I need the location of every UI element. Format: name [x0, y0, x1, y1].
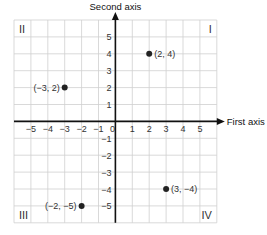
data-point [163, 186, 169, 192]
x-tick-label: −4 [43, 124, 53, 134]
x-tick-label: −2 [76, 124, 86, 134]
quadrant-label: II [19, 23, 25, 35]
y-tick-label: −4 [101, 185, 111, 195]
data-point-label: (3, −4) [171, 184, 197, 194]
data-point [62, 85, 68, 91]
data-point [146, 51, 152, 57]
y-tick-label: −1 [101, 134, 111, 144]
y-tick-label: 3 [106, 66, 111, 76]
quadrant-label: IV [201, 209, 212, 221]
y-tick-label: −5 [101, 201, 111, 211]
x-axis-label: First axis [227, 116, 265, 127]
data-point-label: (−3, 2) [33, 83, 59, 93]
axes: First axis Second axis [14, 1, 265, 223]
data-point [79, 203, 85, 209]
data-point-label: (−2, −5) [45, 201, 77, 211]
y-tick-label: −2 [101, 151, 111, 161]
y-tick-label: 5 [106, 32, 111, 42]
data-point-label: (2, 4) [154, 49, 175, 59]
x-tick-label: −3 [60, 124, 70, 134]
x-tick-label: 2 [147, 124, 152, 134]
y-axis-arrowhead [112, 12, 119, 20]
quadrant-label: I [209, 23, 212, 35]
y-axis-label: Second axis [90, 1, 142, 12]
x-tick-label: −5 [26, 124, 36, 134]
y-tick-label: 2 [106, 83, 111, 93]
x-tick-label: 5 [197, 124, 202, 134]
x-tick-label: 4 [180, 124, 185, 134]
y-tick-label: −3 [101, 168, 111, 178]
x-tick-label: 3 [164, 124, 169, 134]
y-tick-label: 4 [106, 49, 111, 59]
quadrant-label: III [19, 209, 28, 221]
x-axis-arrowhead [217, 118, 225, 125]
x-tick-label: 1 [130, 124, 135, 134]
y-tick-label: 1 [106, 100, 111, 110]
coordinate-plane: First axis Second axis −5−4−3−2−10123455… [0, 0, 267, 235]
